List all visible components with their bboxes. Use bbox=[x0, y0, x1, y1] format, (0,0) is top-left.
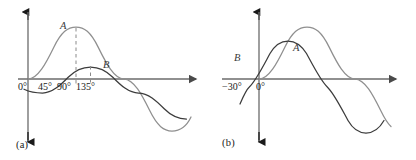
panel-caption-a: (a) bbox=[16, 139, 28, 150]
curve-b-A bbox=[259, 27, 391, 127]
curve-label-B-panel-a: B bbox=[103, 59, 109, 70]
panel-b-plot bbox=[208, 0, 416, 160]
curve-label-A-panel-b: A bbox=[293, 42, 299, 53]
panel-a-plot bbox=[0, 0, 208, 160]
curve-label-A-panel-a: A bbox=[60, 20, 66, 31]
figure-container: A B 0° 45° 90° 135° (a) bbox=[0, 0, 416, 160]
x-tick-label-0deg-a: 0° bbox=[18, 81, 27, 92]
x-tick-label-minus30deg-b: −30° bbox=[222, 81, 242, 92]
x-tick-label-90deg-a: 90° bbox=[57, 81, 71, 92]
x-tick-label-135deg-a: 135° bbox=[76, 81, 95, 92]
curve-label-B-panel-b: B bbox=[234, 52, 240, 63]
curve-a-B bbox=[24, 67, 187, 119]
panel-a: A B 0° 45° 90° 135° (a) bbox=[0, 0, 208, 160]
x-tick-label-0deg-b: 0° bbox=[256, 81, 265, 92]
panel-b: B A −30° 0° (b) bbox=[208, 0, 416, 160]
x-tick-label-45deg-a: 45° bbox=[38, 81, 52, 92]
panel-caption-b: (b) bbox=[222, 137, 235, 148]
